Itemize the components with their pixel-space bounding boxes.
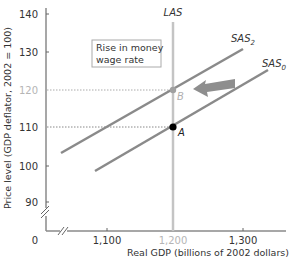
x-tick-1300: 1,300 xyxy=(229,235,258,246)
x-axis xyxy=(46,227,286,235)
y-tick-90: 90 xyxy=(25,197,38,208)
x-tick-1200: 1,200 xyxy=(159,235,188,246)
x-tick-1100: 1,100 xyxy=(93,235,122,246)
x-axis-title: Real GDP (billions of 2002 dollars) xyxy=(127,247,289,258)
annotation-line-1: Rise in money xyxy=(96,42,164,53)
point-a xyxy=(169,123,176,130)
y-tick-140: 140 xyxy=(19,9,38,20)
y-axis xyxy=(41,8,49,231)
sas2-label: SAS2 xyxy=(231,33,256,47)
y-tick-130: 130 xyxy=(19,47,38,58)
point-b xyxy=(170,87,176,93)
sas0-label: SAS0 xyxy=(262,58,287,72)
origin-label: 0 xyxy=(32,235,38,246)
point-a-label: A xyxy=(177,127,185,138)
y-tick-110: 110 xyxy=(19,122,38,133)
annotation-line-2: wage rate xyxy=(96,54,144,65)
las-label: LAS xyxy=(164,7,183,18)
point-b-label: B xyxy=(177,91,184,102)
y-tick-120: 120 xyxy=(19,85,38,96)
y-tick-100: 100 xyxy=(19,161,38,172)
chart-canvas: 140 130 120 110 100 90 0 1,100 1,200 1,3… xyxy=(0,0,293,259)
y-axis-title: Price level (GDP deflator, 2002 = 100) xyxy=(2,27,13,209)
annotation-box: Rise in money wage rate xyxy=(92,40,164,67)
